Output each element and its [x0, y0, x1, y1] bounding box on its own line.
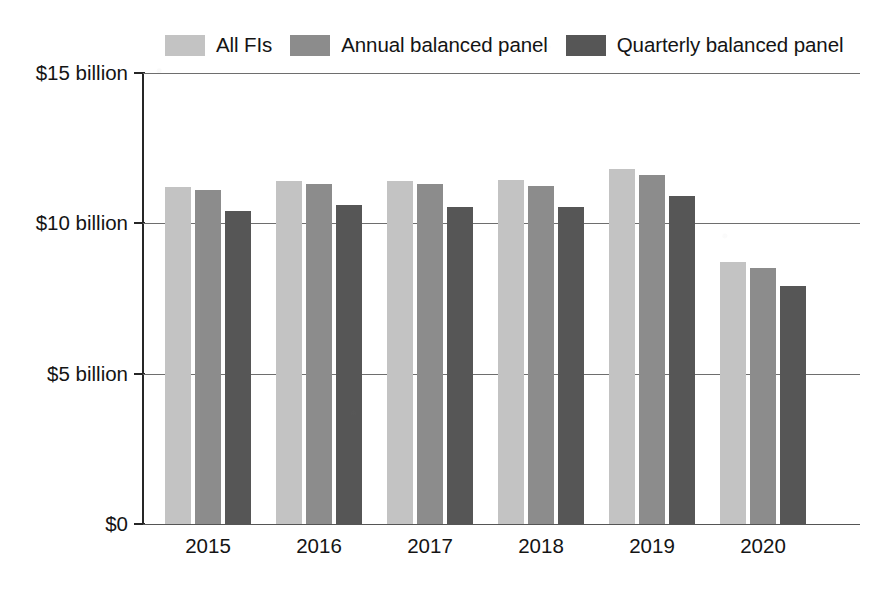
bar-2015-series-0	[165, 187, 191, 524]
y-axis-label-5: $5 billion	[0, 362, 128, 386]
x-axis-label-2015: 2015	[153, 534, 263, 558]
gridline-0	[143, 524, 860, 525]
bar-2018-series-0	[498, 180, 524, 524]
bar-2016-series-1	[306, 184, 332, 524]
legend-label-annual-balanced-panel: Annual balanced panel	[341, 33, 548, 57]
bar-2020-series-0	[720, 262, 746, 524]
bar-2016-series-2	[336, 205, 362, 524]
bar-2019-series-2	[669, 196, 695, 524]
legend-swatch-all-fis	[165, 35, 205, 56]
bar-2019-series-0	[609, 169, 635, 524]
bar-2016-series-0	[276, 181, 302, 524]
legend-item-all-fis: All FIs	[165, 33, 272, 57]
bar-group-2016	[276, 73, 362, 524]
x-axis-label-2019: 2019	[597, 534, 707, 558]
legend-label-all-fis: All FIs	[216, 33, 272, 57]
bar-group-2018	[498, 73, 584, 524]
bar-chart: All FIs Annual balanced panel Quarterly …	[0, 0, 884, 590]
bar-group-2020	[720, 73, 806, 524]
plot-area	[143, 73, 860, 524]
x-axis-label-2018: 2018	[486, 534, 596, 558]
x-axis-label-2016: 2016	[264, 534, 374, 558]
legend-item-annual-balanced-panel: Annual balanced panel	[290, 33, 548, 57]
x-axis-label-2017: 2017	[375, 534, 485, 558]
bar-2020-series-2	[780, 286, 806, 524]
bar-group-2019	[609, 73, 695, 524]
legend-label-quarterly-balanced-panel: Quarterly balanced panel	[617, 33, 844, 57]
bar-2015-series-1	[195, 190, 221, 524]
bar-2017-series-2	[447, 207, 473, 524]
legend-swatch-annual-balanced-panel	[290, 35, 330, 56]
bar-2018-series-2	[558, 207, 584, 524]
bar-2017-series-1	[417, 184, 443, 524]
bar-2015-series-2	[225, 211, 251, 524]
y-axis-label-10: $10 billion	[0, 211, 128, 235]
y-axis-label-0: $0	[0, 512, 128, 536]
bar-2018-series-1	[528, 186, 554, 524]
bar-2017-series-0	[387, 181, 413, 524]
x-axis-label-2020: 2020	[708, 534, 818, 558]
legend-swatch-quarterly-balanced-panel	[566, 35, 606, 56]
bar-group-2017	[387, 73, 473, 524]
legend-item-quarterly-balanced-panel: Quarterly balanced panel	[566, 33, 844, 57]
bar-group-2015	[165, 73, 251, 524]
bar-2019-series-1	[639, 175, 665, 524]
y-axis-label-15: $15 billion	[0, 61, 128, 85]
bar-2020-series-1	[750, 268, 776, 524]
chart-legend: All FIs Annual balanced panel Quarterly …	[165, 33, 861, 57]
